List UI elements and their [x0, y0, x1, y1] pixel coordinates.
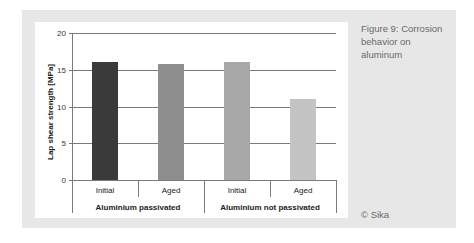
copyright-notice: © Sika: [361, 209, 389, 220]
x-group-label: Aluminium passivated: [72, 203, 204, 212]
category-divider: [270, 180, 271, 197]
bar-4: [290, 99, 316, 180]
bar-3: [224, 62, 250, 180]
bar-1: [92, 62, 118, 180]
x-group-label: Aluminium not passivated: [204, 203, 336, 212]
y-tick-label: 0: [46, 176, 66, 185]
gridline: [69, 33, 336, 34]
x-category-label: Initial: [204, 186, 270, 195]
y-axis-label: Lap shear strength [MPa]: [46, 64, 55, 160]
x-category-label: Aged: [138, 186, 204, 195]
x-category-label: Initial: [72, 186, 138, 195]
x-category-label: Aged: [270, 186, 336, 195]
gridline: [69, 180, 336, 181]
y-tick-label: 20: [46, 29, 66, 38]
figure-caption: Figure 9: Corrosion behavior on aluminum: [361, 22, 453, 61]
category-divider: [138, 180, 139, 197]
y-axis-line: [72, 33, 73, 180]
group-divider: [336, 180, 337, 213]
bar-2: [158, 64, 184, 180]
